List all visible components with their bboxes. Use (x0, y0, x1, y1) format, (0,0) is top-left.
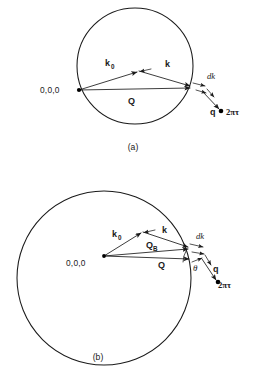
angle-theta-arc-b (183, 251, 186, 262)
vector-QB-b (104, 249, 188, 256)
label-lattice-point-a: 2πτ (226, 107, 239, 117)
vector-dk-lower-a (196, 90, 206, 93)
label-QB-b: Q (146, 240, 153, 250)
panel-a: 0,0,0 k 0 k Q dk q 2πτ (a) (40, 8, 239, 152)
vector-k-apex-marker-a (140, 69, 151, 72)
lattice-point-dot-a (219, 109, 224, 114)
vector-q-aux-a (207, 89, 214, 97)
label-k0-subscript-b: 0 (118, 234, 122, 241)
label-q-a: q (210, 107, 216, 117)
label-dk-a: dk (207, 71, 215, 81)
vector-dk-a (193, 83, 205, 86)
vector-Q-b (104, 256, 189, 259)
label-lattice-point-b: 2πτ (218, 280, 231, 290)
label-theta-b: θ (193, 263, 198, 273)
label-k-b: k (162, 225, 168, 235)
vector-k-apex-marker-b (144, 230, 155, 233)
origin-dot-b (102, 254, 106, 258)
label-dk-b: dk (196, 231, 204, 241)
vector-q-aux-b (205, 255, 211, 265)
vector-k0-a (79, 72, 137, 90)
ewald-sphere-b (17, 191, 191, 365)
ewald-sphere-a (77, 8, 193, 124)
label-origin-b: 0,0,0 (66, 258, 86, 268)
vector-dk-lower-b (192, 252, 204, 254)
label-k-a: k (165, 59, 171, 69)
panel-b: 0,0,0 k 0 k Q B Q dk θ q 2πτ (b) (17, 191, 231, 365)
caption-panel-a: (a) (128, 142, 139, 152)
vector-k-a (139, 71, 190, 86)
label-origin-a: 0,0,0 (40, 85, 60, 95)
vector-k0-b (104, 233, 141, 256)
scattering-geometry-figure: 0,0,0 k 0 k Q dk q 2πτ (a) (0, 0, 266, 366)
label-QB-subscript-b: B (153, 245, 158, 252)
vector-dk-theta-b (192, 258, 202, 262)
vector-dk-b (190, 244, 203, 247)
label-Q-b: Q (158, 260, 165, 270)
origin-dot-a (77, 88, 81, 92)
label-Q-a: Q (128, 96, 135, 106)
label-q-b: q (213, 264, 219, 274)
label-k0-subscript-a: 0 (111, 63, 115, 70)
caption-panel-b: (b) (93, 352, 104, 362)
vector-Q-a (79, 88, 190, 90)
